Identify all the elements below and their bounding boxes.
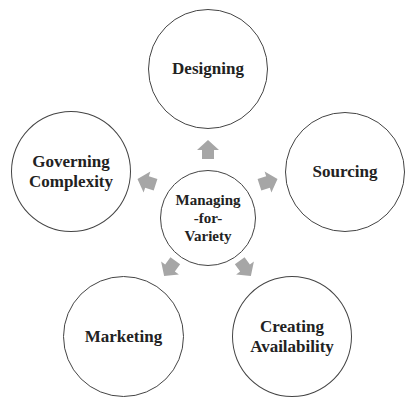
- arrow-left-icon: [134, 168, 159, 195]
- arrow-right-icon: [256, 168, 281, 195]
- arrows-layer: [0, 0, 417, 411]
- arrow-down-right-icon: [231, 254, 260, 282]
- diagram-canvas: Designing Sourcing Creating Availability…: [0, 0, 417, 411]
- arrow-up-icon: [197, 140, 219, 159]
- arrow-down-left-icon: [155, 254, 184, 282]
